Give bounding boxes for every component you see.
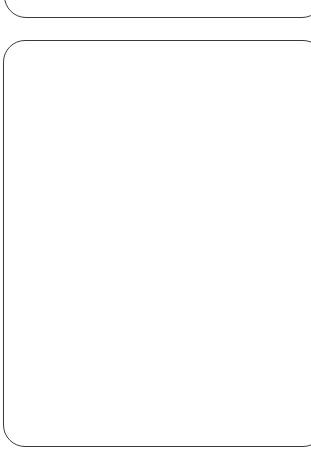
screen xyxy=(0,0,311,449)
bottom-panel xyxy=(3,40,311,447)
top-panel xyxy=(4,0,311,18)
